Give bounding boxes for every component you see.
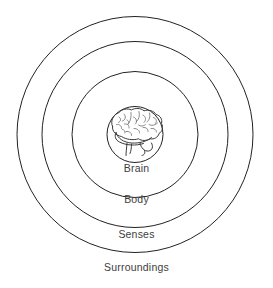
ring-body [72,72,198,198]
ring-label-senses: Senses [0,228,273,240]
concentric-rings-diagram: Brain Body Senses Surroundings [0,0,273,288]
ring-surroundings [17,17,253,253]
ring-label-brain: Brain [0,162,273,174]
ring-label-body: Body [0,193,273,205]
diagram-canvas [0,0,273,288]
ring-label-surroundings: Surroundings [0,261,273,273]
brain-illustration [112,108,163,155]
